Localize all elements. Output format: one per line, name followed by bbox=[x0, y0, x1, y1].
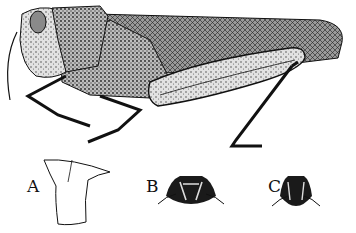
eye bbox=[30, 11, 46, 33]
figure: A B C bbox=[0, 0, 356, 233]
panel-label-b: B bbox=[146, 178, 159, 195]
middle-leg bbox=[88, 96, 140, 142]
panel-label-a: A bbox=[27, 178, 39, 195]
panel-label-c: C bbox=[268, 178, 281, 195]
panel-a-pronotum-outline bbox=[44, 160, 110, 225]
antenna bbox=[8, 32, 17, 100]
panel-b-figure bbox=[158, 176, 224, 204]
grasshopper-illustration bbox=[0, 0, 356, 233]
